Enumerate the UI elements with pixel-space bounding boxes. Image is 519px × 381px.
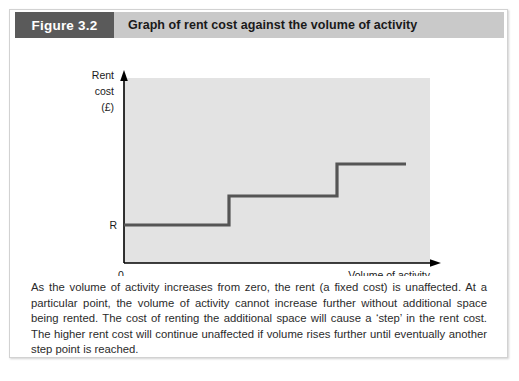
- x-axis-arrow-icon: [430, 259, 441, 267]
- figure-caption: As the volume of activity increases from…: [31, 280, 487, 358]
- figure-card: Figure 3.2 Graph of rent cost against th…: [9, 9, 508, 358]
- figure-number-label: Figure 3.2: [15, 12, 114, 38]
- figure-title: Graph of rent cost against the volume of…: [114, 12, 504, 38]
- y-axis-label-line-3: (£): [101, 101, 114, 113]
- origin-label: 0: [118, 269, 124, 276]
- rent-cost-step-chart: Rent cost (£) R 0 Volume of activity: [10, 40, 507, 276]
- y-axis-label-line-1: Rent: [92, 69, 114, 81]
- x-axis-label: Volume of activity: [348, 269, 430, 276]
- y-axis-label-line-2: cost: [95, 85, 114, 97]
- chart-area: Rent cost (£) R 0 Volume of activity: [10, 40, 507, 276]
- y-axis-arrow-icon: [120, 70, 128, 81]
- plot-background: [124, 78, 430, 263]
- y-axis-tick-label-r: R: [109, 219, 117, 231]
- figure-header: Figure 3.2 Graph of rent cost against th…: [15, 12, 504, 38]
